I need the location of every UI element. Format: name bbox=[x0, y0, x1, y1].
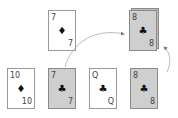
arrow-8-to-deck bbox=[164, 47, 170, 72]
arrows bbox=[0, 0, 178, 118]
arrow-7-to-deck bbox=[65, 33, 124, 67]
